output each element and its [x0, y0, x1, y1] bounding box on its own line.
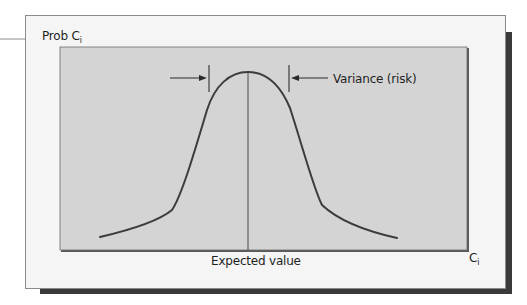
- expected-value-label: Expected value: [211, 254, 301, 268]
- x-axis-label: Ci: [469, 251, 479, 267]
- x-axis-label-text: C: [469, 251, 477, 265]
- variance-label: Variance (risk): [333, 72, 417, 86]
- y-axis-label: Prob Ci: [42, 29, 82, 45]
- figure: Prob Ci Ci Expected value Variance (risk…: [0, 0, 527, 305]
- x-axis-label-subscript: i: [477, 258, 479, 267]
- y-axis-label-text: Prob C: [42, 29, 80, 43]
- y-axis-label-subscript: i: [80, 36, 82, 45]
